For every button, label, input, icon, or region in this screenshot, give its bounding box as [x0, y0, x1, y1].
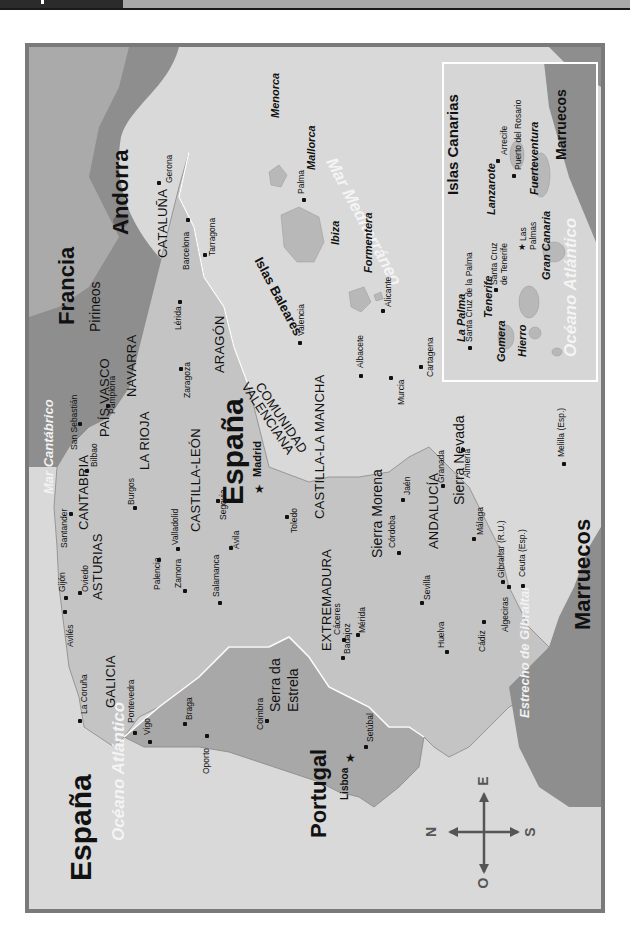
city-marker-gerona [157, 181, 161, 185]
city-label-pamplona: Pamplona [108, 376, 117, 414]
city-label-granada: Granada [437, 450, 446, 483]
region-label-la-rioja: LA RIOJA [138, 411, 151, 470]
city-marker-merida [356, 633, 360, 637]
city-marker-alicante [381, 309, 385, 313]
city-marker-salamanca [218, 601, 222, 605]
city-label-san-sebastian: San Sebastián [70, 395, 79, 450]
mountain-label-serra-estrela-line2: Estrela [286, 668, 300, 712]
city-marker-albacete [359, 374, 363, 378]
region-label-extremadura: EXTREMADURA [320, 549, 333, 651]
city-marker-valencia [298, 341, 302, 345]
city-marker-valladolid [176, 547, 180, 551]
region-label-cataluna: CATALUÑA [156, 189, 169, 258]
city-label-madrid: Madrid [252, 441, 263, 477]
city-marker-las-palmas: ★ [518, 243, 526, 252]
city-marker-cartagena [419, 365, 423, 369]
city-marker-malaga [472, 537, 476, 541]
page-top-bar-tab [0, 0, 123, 8]
city-label-santa-cruz-tenerife-line1: Santa Cruz [490, 242, 499, 285]
city-marker-puerto-rosario [512, 174, 516, 178]
water-label-atlantic: Océano Atlántico [110, 702, 127, 841]
country-label-morocco-inset: Marruecos [554, 89, 568, 160]
city-marker-gibraltar [501, 580, 505, 584]
island-label-menorca: Menorca [270, 73, 281, 118]
city-label-gijon: Gijón [58, 572, 67, 592]
compass-label-south: S [523, 827, 537, 836]
city-marker-pontevedra [133, 731, 137, 735]
city-label-cordoba: Córdoba [388, 515, 397, 548]
water-label-atlantic-inset: Océano Atlántico [562, 218, 579, 357]
city-marker-huelva [445, 650, 449, 654]
city-label-murcia: Murcia [397, 379, 406, 405]
city-marker-algeciras [507, 585, 511, 589]
city-label-jaen: Jaén [403, 477, 412, 495]
formentera-island [374, 292, 383, 301]
city-label-braga: Braga [185, 697, 194, 720]
city-label-zamora: Zamora [174, 559, 183, 588]
city-label-la-coruna: La Coruña [80, 674, 89, 714]
city-marker-sevilla [420, 601, 424, 605]
city-label-zaragoza: Zaragoza [183, 362, 192, 398]
region-label-andalucia: ANDALUCÍA [427, 473, 440, 549]
city-marker-zamora [183, 589, 187, 593]
city-marker-lerida [178, 300, 182, 304]
city-label-gerona: Gerona [165, 155, 174, 183]
city-label-puerto-rosario: Puerto del Rosario [514, 100, 523, 170]
capital-marker-madrid: ★ [254, 483, 265, 495]
city-label-barcelona: Barcelona [182, 232, 191, 270]
city-label-huelva: Huelva [437, 622, 446, 648]
city-label-santa-cruz-tenerife-line2: de Tenerife [500, 243, 509, 285]
city-marker-vigo [148, 740, 152, 744]
island-label-formentera: Formentera [363, 212, 374, 273]
region-label-castilla-leon: CASTILLA-LEÓN [189, 428, 202, 532]
city-label-las-palmas-line1: Las [519, 227, 528, 241]
city-marker-granada [441, 484, 445, 488]
city-marker-setubal [364, 745, 368, 749]
city-label-las-palmas-line2: Palmas [529, 222, 538, 250]
city-label-algeciras: Algeciras [501, 597, 510, 632]
city-marker-melilla [562, 462, 566, 466]
city-label-lerida: Lérida [174, 306, 183, 330]
canarias-title: Islas Canarias [445, 94, 460, 195]
city-label-burgos: Burgos [127, 478, 136, 505]
city-label-aviles: Avilés [66, 624, 75, 647]
mountain-label-sierra-morena: Sierra Morena [370, 469, 384, 558]
city-label-arrecife: Arrecife [500, 126, 509, 155]
ibiza-island [349, 287, 371, 312]
city-marker-cadiz [482, 620, 486, 624]
city-marker-barcelona [186, 218, 190, 222]
city-label-oviedo: Oviedo [81, 565, 90, 592]
city-marker-aviles [63, 610, 67, 614]
city-label-setubal: Setúbal [366, 713, 375, 742]
city-marker-la-coruna [78, 719, 82, 723]
city-marker-badajoz [341, 656, 345, 660]
city-label-bilbao: Bilbao [90, 443, 99, 467]
compass-label-west: O [476, 878, 490, 889]
city-label-vigo: Vigo [143, 718, 152, 735]
region-label-asturias: ASTURIAS [91, 533, 104, 600]
city-marker-gijon [64, 596, 68, 600]
city-label-cartagena: Cartagena [426, 337, 435, 377]
city-label-badajoz: Badajoz [343, 623, 352, 654]
island-label-gran-canaria: Gran Canaria [541, 211, 552, 280]
page-top-bar-marker [41, 0, 44, 4]
compass-rose: N S E O [430, 780, 540, 890]
city-label-alicante: Alicante [384, 277, 393, 307]
city-label-pontevedra: Pontevedra [127, 680, 136, 723]
page-top-bar [0, 0, 630, 10]
island-label-mallorca: Mallorca [306, 125, 317, 170]
city-marker-murcia [389, 376, 393, 380]
city-label-valladolid: Valladolid [171, 509, 180, 545]
city-label-caceres: Cáceres [333, 603, 342, 635]
city-marker-santa-cruz-palma [468, 346, 472, 350]
city-marker-bilbao [85, 469, 89, 473]
country-label-portugal: Portugal [308, 749, 330, 838]
island-label-ibiza: Ibiza [330, 221, 341, 245]
city-label-santa-cruz-palma: Santa Cruz de la Palma [465, 252, 474, 342]
city-marker-santa-cruz-tenerife [494, 288, 498, 292]
city-marker-jaen [401, 498, 405, 502]
mountain-label-pyrenees: Pirineos [88, 281, 102, 332]
city-marker-braga [183, 722, 187, 726]
city-label-segovia: Segovia [219, 489, 228, 520]
city-marker-santander [69, 512, 73, 516]
